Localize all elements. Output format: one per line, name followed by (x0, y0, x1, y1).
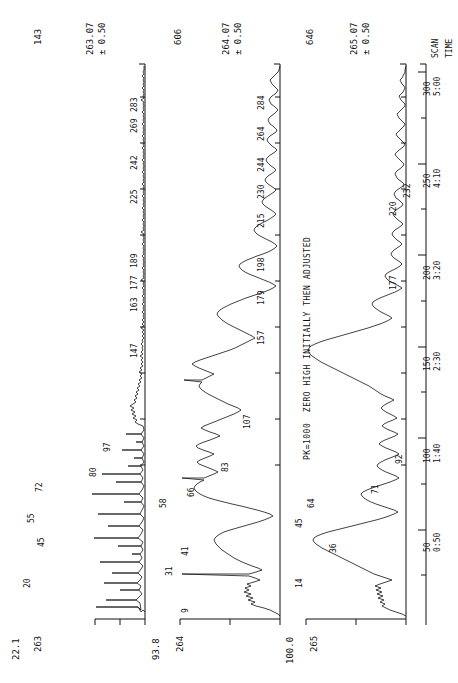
panel-264-scale-value: 93.8 (152, 638, 161, 660)
peak-label: 83 (222, 462, 230, 472)
peak-label: 107 (244, 415, 252, 429)
chromatogram-figure: 143 263.07 ± 0.50 22.1 263 20 45 55 72 8… (0, 0, 458, 683)
peak-label: 220 (390, 202, 398, 216)
peak-label: 242 (131, 156, 139, 170)
axis-tick-scan: 150 (424, 357, 432, 371)
peak-label: 177 (390, 276, 398, 290)
peak-label: 198 (258, 258, 266, 272)
peak-label: 97 (104, 442, 112, 452)
peak-label: 55 (28, 513, 36, 523)
peak-label: 147 (131, 344, 139, 358)
peak-label: 9 (182, 608, 190, 613)
peak-label: 58 (160, 498, 168, 508)
panel-264-count: 606 (174, 29, 183, 45)
peak-label: 284 (258, 96, 266, 110)
trace-line-263 (92, 66, 145, 612)
axis-tick-scan: 300 (424, 82, 432, 96)
peak-label: 269 (131, 119, 139, 133)
peak-label: 244 (258, 158, 266, 172)
axis-tick-time: 2:30 (434, 352, 442, 371)
peak-label: 20 (24, 578, 32, 588)
panel-263-count: 143 (34, 29, 43, 45)
peak-label: 41 (182, 546, 190, 556)
peak-label: 45 (38, 537, 46, 547)
peak-label: 92 (396, 454, 404, 464)
scan-time-axis (412, 0, 458, 683)
panel-264-mass: 264.07 (222, 22, 231, 55)
panel-263-tolerance: ± 0.50 (98, 22, 107, 55)
axis-tick-time: 3:20 (434, 261, 442, 280)
panel-265-count: 646 (306, 29, 315, 45)
peak-label: 179 (258, 291, 266, 305)
axis-title-time: TIME (446, 39, 454, 58)
peak-label: 72 (36, 482, 44, 492)
axis-tick-scan: 200 (424, 266, 432, 280)
peak-label: 66 (188, 487, 196, 497)
axis-tick-time: 4:10 (434, 169, 442, 188)
panel-263-scale-label: 263 (34, 636, 43, 652)
axis-svg (412, 0, 458, 683)
peak-label: 189 (131, 254, 139, 268)
peak-label: 71 (372, 484, 380, 494)
panel-264-tolerance: ± 0.50 (234, 22, 243, 55)
peak-label: 163 (131, 298, 139, 312)
axis-tick-time: 1:40 (434, 444, 442, 463)
axis-tick-time: 5:00 (434, 77, 442, 96)
trace-line-265 (308, 66, 406, 616)
panel-263-mass: 263.07 (86, 22, 95, 55)
axis-frame (418, 64, 426, 625)
axis-title-scan: SCAN (432, 39, 440, 58)
axis-tick-time: 0:50 (434, 533, 442, 552)
peak-label: 80 (90, 467, 98, 477)
axis-tick-scan: 100 (424, 449, 432, 463)
panel-frame-265 (306, 64, 406, 625)
peak-label: 225 (131, 190, 139, 204)
panel-264-scale-label: 264 (176, 636, 185, 652)
panel-263-scale-value: 22.1 (12, 638, 21, 660)
peak-label: 283 (131, 98, 139, 112)
annotation-note: PK=1000 ZERO HIGH INITIALLY THEN ADJUSTE… (304, 237, 312, 460)
panel-265-mass: 265.07 (350, 22, 359, 55)
peak-label: 14 (296, 578, 304, 588)
peak-label: 31 (166, 566, 174, 576)
peak-label: 157 (258, 331, 266, 345)
peak-label: 264 (258, 127, 266, 141)
peak-label: 36 (330, 543, 338, 553)
panel-265-tolerance: ± 0.50 (362, 22, 371, 55)
axis-tick-scan: 50 (424, 542, 432, 552)
peak-label: 64 (308, 498, 316, 508)
peak-label: 45 (296, 518, 304, 528)
peak-label: 230 (258, 185, 266, 199)
peak-label: 177 (131, 276, 139, 290)
panel-265-scale-value: 100.0 (286, 637, 295, 664)
axis-tick-scan: 250 (424, 174, 432, 188)
panel-265-scale-label: 265 (310, 636, 319, 652)
peak-label: 215 (258, 214, 266, 228)
